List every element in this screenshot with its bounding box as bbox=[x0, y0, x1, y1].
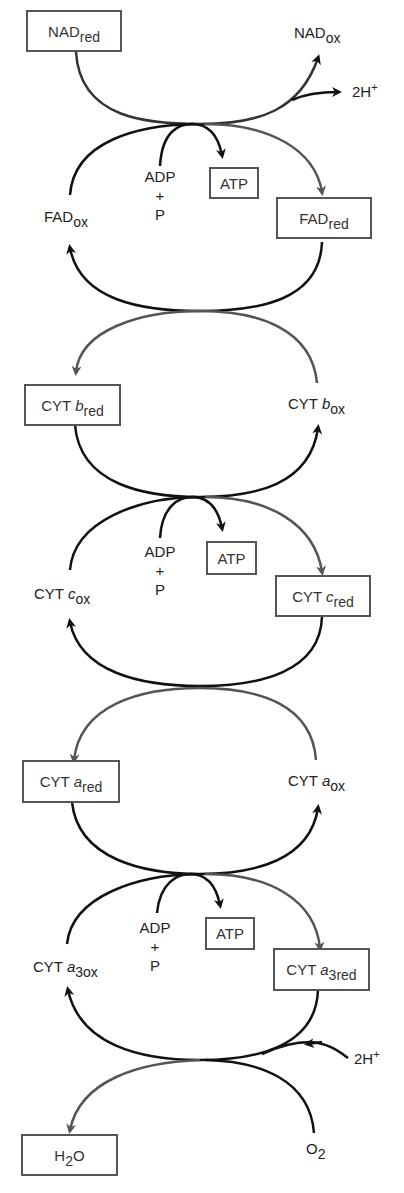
h2o-box: H2O bbox=[21, 1134, 118, 1176]
arrow-cytbred-to-cytbox bbox=[75, 425, 318, 497]
arrow-cytaox-to-cytared bbox=[74, 688, 316, 760]
p-label-2: P bbox=[142, 580, 178, 599]
atp-box-1: ATP bbox=[209, 167, 259, 199]
cytcred-box: CYT cred bbox=[275, 575, 371, 617]
adp-p-stack-3: ADP + P bbox=[137, 918, 173, 975]
atp-label-1: ATP bbox=[220, 175, 248, 192]
cytbred-box: CYT bred bbox=[24, 384, 121, 426]
arrow-adp-to-atp-3 bbox=[157, 874, 220, 913]
h-top-label: 2H+ bbox=[352, 83, 378, 100]
h-bottom-label: 2H+ bbox=[354, 1050, 380, 1067]
nadox-label: NADox bbox=[294, 24, 340, 41]
nadred-label: NADred bbox=[48, 23, 100, 40]
h2o-label: H2O bbox=[54, 1147, 84, 1164]
cytbred-label: CYT bred bbox=[41, 397, 103, 414]
arrow-cyta3ox-from-junction bbox=[67, 874, 195, 944]
o2-label: O2 bbox=[306, 1140, 325, 1157]
cytcred-label: CYT cred bbox=[292, 588, 354, 605]
cyta3ox-label: CYT a3ox bbox=[33, 958, 98, 975]
arrow-adp-to-atp-2 bbox=[160, 497, 222, 538]
atp-box-2: ATP bbox=[206, 541, 257, 575]
cytbox-label: CYT box bbox=[288, 395, 345, 412]
arrow-cytbox-to-cytbred bbox=[76, 311, 317, 383]
p-label-3: P bbox=[137, 956, 173, 975]
adp-label-2: ADP bbox=[142, 542, 178, 561]
cytaox-label: CYT aox bbox=[288, 772, 345, 789]
p-label-1: P bbox=[142, 205, 178, 224]
atp-label-2: ATP bbox=[217, 550, 245, 567]
atp-box-3: ATP bbox=[205, 917, 255, 950]
adp-label-3: ADP bbox=[137, 918, 173, 937]
cytared-box: CYT ared bbox=[22, 760, 120, 803]
plus-label-3: + bbox=[137, 937, 173, 956]
cyta3red-label: CYT a3red bbox=[286, 961, 356, 978]
plus-label-2: + bbox=[142, 561, 178, 580]
cytared-label: CYT ared bbox=[40, 773, 102, 790]
adp-p-stack-2: ADP + P bbox=[142, 542, 178, 599]
atp-label-3: ATP bbox=[216, 925, 244, 942]
arrow-junction-to-h2o bbox=[70, 1060, 200, 1130]
fadred-label: FADred bbox=[299, 210, 348, 227]
arrow-o2-to-junction bbox=[205, 1060, 314, 1133]
adp-label-1: ADP bbox=[142, 167, 178, 186]
arrow-cyta3red-to-cyta3ox bbox=[68, 990, 318, 1060]
arrow-cytcred-to-cytcox bbox=[70, 617, 322, 686]
fadox-label: FADox bbox=[44, 208, 88, 225]
arrow-cytared-to-cytaox bbox=[72, 802, 318, 874]
arrow-nadred-to-nadox bbox=[76, 52, 318, 124]
cytcox-label: CYT cox bbox=[34, 585, 90, 602]
cyta3red-box: CYT a3red bbox=[273, 948, 370, 991]
nadred-box: NADred bbox=[26, 10, 122, 52]
adp-p-stack-1: ADP + P bbox=[142, 167, 178, 224]
plus-label-1: + bbox=[142, 186, 178, 205]
fadred-box: FADred bbox=[276, 197, 372, 239]
arrow-2h-bottom-in bbox=[262, 1042, 348, 1058]
arrow-fadred-to-fadox bbox=[70, 242, 322, 311]
arrow-adp-to-atp-1 bbox=[160, 124, 222, 166]
